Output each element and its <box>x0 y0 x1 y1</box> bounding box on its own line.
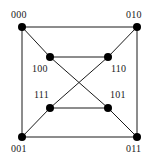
graph-edge <box>22 108 50 137</box>
vertex-label: 000 <box>11 10 27 20</box>
vertex-label: 111 <box>34 90 49 100</box>
edges-group <box>22 27 137 137</box>
graph-edge <box>108 108 137 137</box>
graph-vertex <box>133 23 141 31</box>
vertex-label: 010 <box>126 10 142 20</box>
graph-vertex <box>46 104 54 112</box>
hypercube-graph-figure: 000010001011100110111101 <box>0 0 158 163</box>
vertex-label: 100 <box>32 64 48 74</box>
graph-edge <box>108 27 137 57</box>
graph-vertex <box>46 53 54 61</box>
vertex-label: 011 <box>126 144 141 154</box>
graph-canvas <box>0 0 158 163</box>
vertex-label: 110 <box>111 64 126 74</box>
graph-vertex <box>18 23 26 31</box>
graph-vertex <box>104 104 112 112</box>
graph-vertex <box>104 53 112 61</box>
graph-vertex <box>133 133 141 141</box>
graph-vertex <box>18 133 26 141</box>
vertex-label: 101 <box>110 90 126 100</box>
graph-edge <box>22 27 50 57</box>
vertex-label: 001 <box>11 144 27 154</box>
